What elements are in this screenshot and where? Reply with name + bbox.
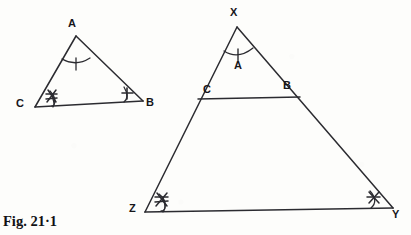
vertex-label-Z: Z — [129, 203, 136, 214]
side-XZ — [145, 27, 237, 212]
vertex-label-Y: Y — [392, 209, 399, 220]
vertex-label-B: B — [146, 97, 154, 108]
angle-mark-A — [62, 58, 90, 70]
angle-mark-C — [46, 90, 57, 107]
angle-mark-Y — [367, 191, 380, 208]
small-triangle-group — [35, 36, 143, 107]
angle-inner-label-A: A — [234, 60, 242, 71]
side-ZY — [145, 208, 393, 212]
large-triangle-group — [145, 27, 393, 212]
segment-CB-inner — [198, 97, 300, 99]
vertex-label-A: A — [68, 18, 76, 29]
side-CB — [35, 101, 143, 107]
angle-mark-Z — [155, 193, 168, 212]
figure-container: · · · — [0, 0, 411, 235]
vertex-label-C: C — [16, 98, 24, 109]
side-AC — [35, 36, 76, 107]
figure-caption: Fig. 21·1 — [3, 214, 57, 229]
geometry-diagram-svg — [0, 0, 411, 235]
vertex-label-X: X — [230, 7, 237, 18]
side-AB — [76, 36, 143, 101]
side-XY — [237, 27, 393, 208]
point-label-C-inner: C — [203, 84, 211, 95]
point-label-B-inner: B — [283, 80, 291, 91]
